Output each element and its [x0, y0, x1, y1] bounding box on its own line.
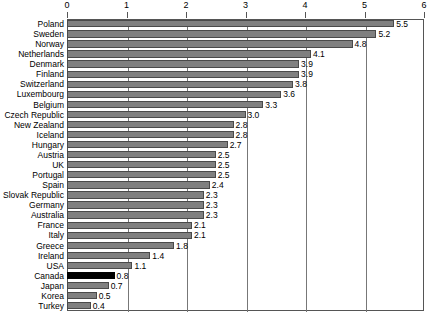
value-label-portugal: 2.5	[218, 170, 230, 180]
value-label-france: 2.1	[194, 220, 206, 230]
value-label-usa: 1.1	[134, 261, 146, 271]
bar-row: Iceland2.8	[0, 130, 433, 140]
category-label-slovak-republic: Slovak Republic	[0, 190, 64, 200]
bar-row: France2.1	[0, 220, 433, 230]
bar-row: Canada0.8	[0, 271, 433, 281]
value-label-hungary: 2.7	[230, 140, 242, 150]
value-label-luxembourg: 3.6	[283, 89, 295, 99]
bar-belgium	[67, 101, 263, 108]
value-label-japan: 0.7	[111, 281, 123, 291]
bar-row: Poland5.5	[0, 19, 433, 29]
category-label-new-zealand: New Zealand	[0, 120, 64, 130]
category-label-portugal: Portugal	[0, 170, 64, 180]
value-label-uk: 2.5	[218, 160, 230, 170]
x-tick-mark-2	[186, 12, 187, 18]
bar-uk	[67, 161, 216, 168]
bar-japan	[67, 282, 109, 289]
category-label-australia: Australia	[0, 210, 64, 220]
value-label-new-zealand: 2.8	[236, 120, 248, 130]
x-tick-label-5: 5	[362, 0, 367, 11]
bar-row: Germany2.3	[0, 200, 433, 210]
value-label-norway: 4.8	[355, 39, 367, 49]
value-label-denmark: 3.9	[301, 59, 313, 69]
value-label-turkey: 0.4	[93, 301, 105, 311]
x-tick-label-4: 4	[302, 0, 307, 11]
bar-denmark	[67, 60, 299, 67]
category-label-belgium: Belgium	[0, 100, 64, 110]
bar-row: Australia2.3	[0, 210, 433, 220]
bar-switzerland	[67, 81, 293, 88]
category-label-canada: Canada	[0, 271, 64, 281]
category-label-finland: Finland	[0, 69, 64, 79]
bar-slovak-republic	[67, 191, 204, 198]
bar-italy	[67, 232, 192, 239]
x-tick-mark-6	[424, 12, 425, 18]
bar-austria	[67, 151, 216, 158]
x-tick-label-0: 0	[64, 0, 69, 11]
category-label-italy: Italy	[0, 230, 64, 240]
x-tick-label-3: 3	[243, 0, 248, 11]
x-tick-label-6: 6	[421, 0, 426, 11]
bar-netherlands	[67, 50, 311, 57]
category-label-japan: Japan	[0, 281, 64, 291]
value-label-canada: 0.8	[117, 271, 129, 281]
bar-row: UK2.5	[0, 160, 433, 170]
bar-iceland	[67, 131, 234, 138]
category-label-iceland: Iceland	[0, 130, 64, 140]
bar-luxembourg	[67, 91, 281, 98]
category-label-denmark: Denmark	[0, 59, 64, 69]
bar-sweden	[67, 30, 376, 37]
value-label-sweden: 5.2	[378, 29, 390, 39]
bar-row: Belgium3.3	[0, 100, 433, 110]
value-label-netherlands: 4.1	[313, 49, 325, 59]
bar-poland	[67, 20, 394, 27]
bar-row: Luxembourg3.6	[0, 89, 433, 99]
value-label-czech-republic: 3.0	[248, 110, 260, 120]
bar-row: Czech Republic3.0	[0, 110, 433, 120]
category-label-ireland: Ireland	[0, 251, 64, 261]
value-label-finland: 3.9	[301, 69, 313, 79]
bar-row: New Zealand2.8	[0, 120, 433, 130]
bar-row: Italy2.1	[0, 230, 433, 240]
category-label-uk: UK	[0, 160, 64, 170]
category-label-switzerland: Switzerland	[0, 79, 64, 89]
bar-row: Sweden5.2	[0, 29, 433, 39]
bar-row: USA1.1	[0, 261, 433, 271]
value-label-australia: 2.3	[206, 210, 218, 220]
x-tick-mark-1	[127, 12, 128, 18]
bar-row: Switzerland3.8	[0, 79, 433, 89]
category-label-korea: Korea	[0, 291, 64, 301]
category-label-germany: Germany	[0, 200, 64, 210]
bar-turkey	[67, 302, 91, 309]
bar-canada	[67, 272, 115, 279]
x-tick-label-1: 1	[124, 0, 129, 11]
bar-korea	[67, 292, 97, 299]
bar-row: Portugal2.5	[0, 170, 433, 180]
bar-row: Spain2.4	[0, 180, 433, 190]
bar-spain	[67, 181, 210, 188]
bar-ireland	[67, 252, 150, 259]
bar-chart: 0123456 Poland5.5Sweden5.2Norway4.8Nethe…	[0, 0, 433, 319]
bar-greece	[67, 242, 174, 249]
value-label-ireland: 1.4	[152, 251, 164, 261]
bar-row: Korea0.5	[0, 291, 433, 301]
bar-portugal	[67, 171, 216, 178]
bar-row: Denmark3.9	[0, 59, 433, 69]
bar-hungary	[67, 141, 228, 148]
bar-row: Japan0.7	[0, 281, 433, 291]
x-tick-mark-0	[67, 12, 68, 18]
bar-usa	[67, 262, 132, 269]
value-label-belgium: 3.3	[265, 100, 277, 110]
category-label-austria: Austria	[0, 150, 64, 160]
bar-australia	[67, 211, 204, 218]
category-label-sweden: Sweden	[0, 29, 64, 39]
value-label-germany: 2.3	[206, 200, 218, 210]
x-tick-label-2: 2	[183, 0, 188, 11]
bar-row: Hungary2.7	[0, 140, 433, 150]
value-label-slovak-republic: 2.3	[206, 190, 218, 200]
value-label-austria: 2.5	[218, 150, 230, 160]
bar-row: Netherlands4.1	[0, 49, 433, 59]
bar-france	[67, 222, 192, 229]
x-tick-mark-3	[246, 12, 247, 18]
category-label-netherlands: Netherlands	[0, 49, 64, 59]
